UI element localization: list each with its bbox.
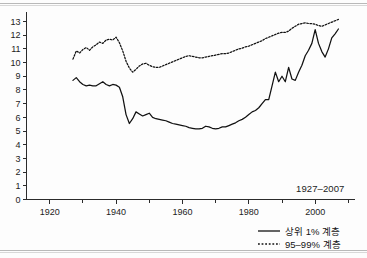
svg-text:8: 8	[15, 85, 20, 95]
chart-legend: 상위 1% 계층 95–99% 계층	[258, 224, 366, 250]
svg-text:5: 5	[15, 126, 20, 136]
svg-text:13: 13	[10, 17, 20, 27]
svg-text:1960: 1960	[172, 207, 192, 217]
svg-text:2000: 2000	[305, 207, 325, 217]
chart-range-annotation: 1927–2007	[296, 183, 344, 194]
svg-text:1940: 1940	[106, 207, 126, 217]
svg-text:1980: 1980	[239, 207, 259, 217]
legend-swatch-solid	[258, 226, 280, 235]
legend-label-95-99: 95–99% 계층	[285, 237, 341, 251]
legend-label-top1: 상위 1% 계층	[285, 224, 340, 238]
svg-text:7: 7	[15, 99, 20, 109]
svg-text:4: 4	[15, 140, 20, 150]
series-line-1	[73, 29, 338, 129]
series-line-2	[73, 19, 338, 72]
svg-text:9: 9	[15, 71, 20, 81]
svg-text:11: 11	[11, 44, 20, 54]
svg-text:1920: 1920	[40, 207, 60, 217]
svg-text:6: 6	[15, 113, 20, 123]
svg-text:3: 3	[15, 154, 20, 164]
svg-text:1: 1	[15, 181, 20, 191]
svg-text:10: 10	[10, 58, 20, 68]
svg-text:0: 0	[15, 195, 20, 205]
chart-plot-area: 01234567891011121319201940196019802000	[0, 0, 367, 258]
svg-text:12: 12	[10, 30, 20, 40]
svg-text:2: 2	[15, 167, 20, 177]
legend-swatch-dotted	[258, 239, 280, 248]
legend-item-top1: 상위 1% 계층	[258, 224, 366, 237]
legend-item-95-99: 95–99% 계층	[258, 237, 366, 250]
chart-figure: 01234567891011121319201940196019802000 1…	[0, 0, 367, 258]
